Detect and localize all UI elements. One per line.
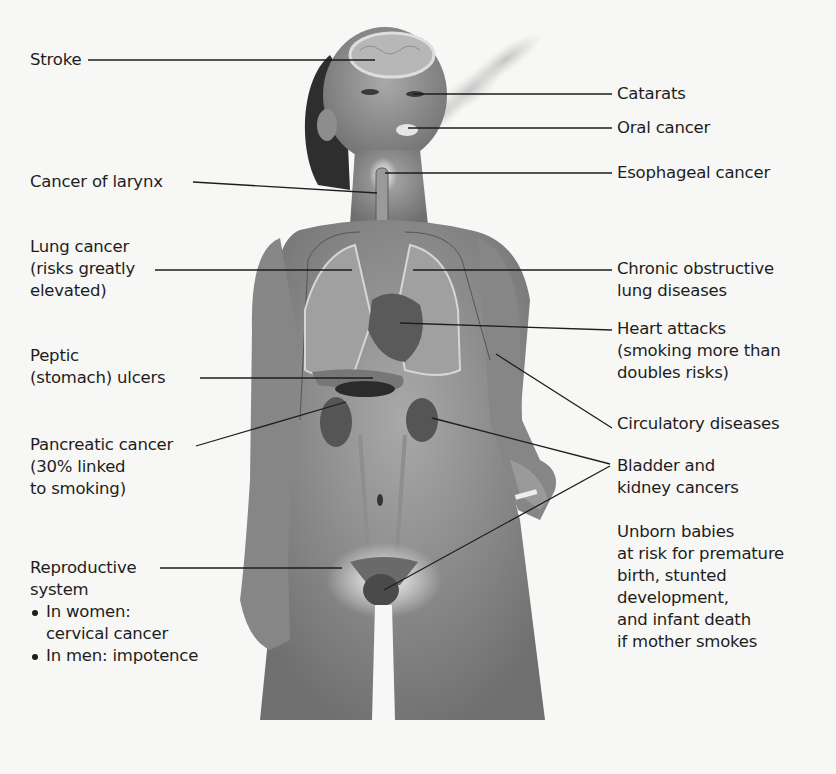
label-peptic-ulcers: Peptic (stomach) ulcers	[30, 345, 165, 389]
label-bladder-kidney-cancers: Bladder and kidney cancers	[617, 455, 739, 499]
label-cataracts: Catarats	[617, 83, 686, 105]
bladder-organ	[363, 574, 399, 606]
bullet-women: In women: cervical cancer	[30, 601, 198, 645]
kidney-right	[406, 398, 438, 442]
label-unborn-babies: Unborn babies at risk for premature birt…	[617, 521, 784, 653]
ear	[317, 109, 337, 141]
pancreas-organ	[335, 381, 395, 397]
label-copd: Chronic obstructive lung diseases	[617, 258, 774, 302]
bullet-men: In men: impotence	[30, 645, 198, 667]
reproductive-bullet-list: In women: cervical cancer In men: impote…	[30, 601, 198, 667]
label-reproductive-system: Reproductive system In women: cervical c…	[30, 557, 198, 667]
label-heart-attacks: Heart attacks (smoking more than doubles…	[617, 318, 780, 384]
label-stroke: Stroke	[30, 49, 81, 71]
mouth-organ	[396, 124, 418, 136]
label-esophageal-cancer: Esophageal cancer	[617, 162, 770, 184]
smoking-health-effects-diagram: Stroke Cancer of larynx Lung cancer (ris…	[0, 0, 836, 774]
label-cancer-of-larynx: Cancer of larynx	[30, 171, 163, 193]
label-oral-cancer: Oral cancer	[617, 117, 710, 139]
brain-organ	[350, 33, 434, 77]
label-pancreatic-cancer: Pancreatic cancer (30% linked to smoking…	[30, 434, 173, 500]
label-circulatory-diseases: Circulatory diseases	[617, 413, 779, 435]
label-lung-cancer: Lung cancer (risks greatly elevated)	[30, 236, 135, 302]
